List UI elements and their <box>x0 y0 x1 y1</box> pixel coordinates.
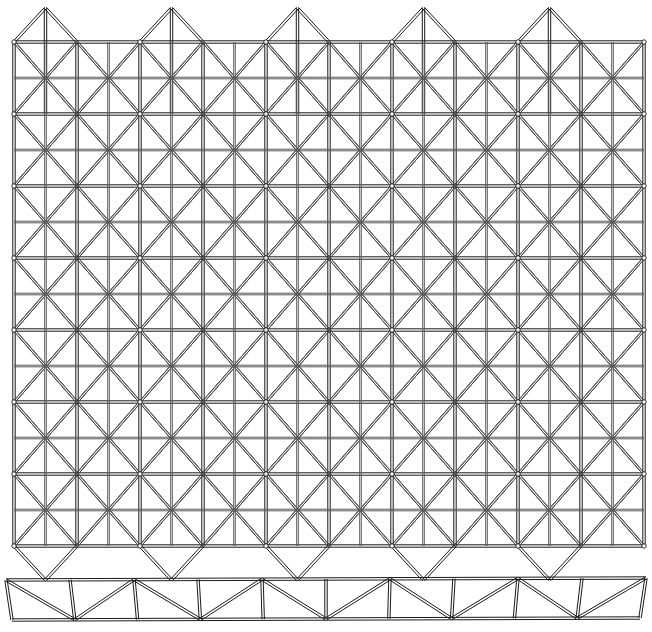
figure-root <box>0 0 652 632</box>
canvas-background <box>0 0 652 632</box>
space-frame-drawing <box>0 0 652 632</box>
